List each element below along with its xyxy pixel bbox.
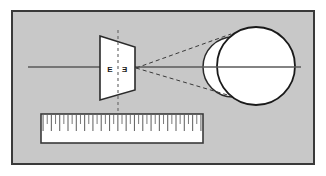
optics-diagram-svg: Optical ray diagram with trapezoidal ele…: [0, 0, 326, 176]
label-e-left: E: [107, 65, 113, 74]
optics-figure-container: Optical ray diagram with trapezoidal ele…: [0, 0, 326, 176]
ruler-scale: [41, 114, 203, 143]
label-e-right: E: [121, 65, 127, 74]
large-circle-front: [217, 27, 295, 105]
